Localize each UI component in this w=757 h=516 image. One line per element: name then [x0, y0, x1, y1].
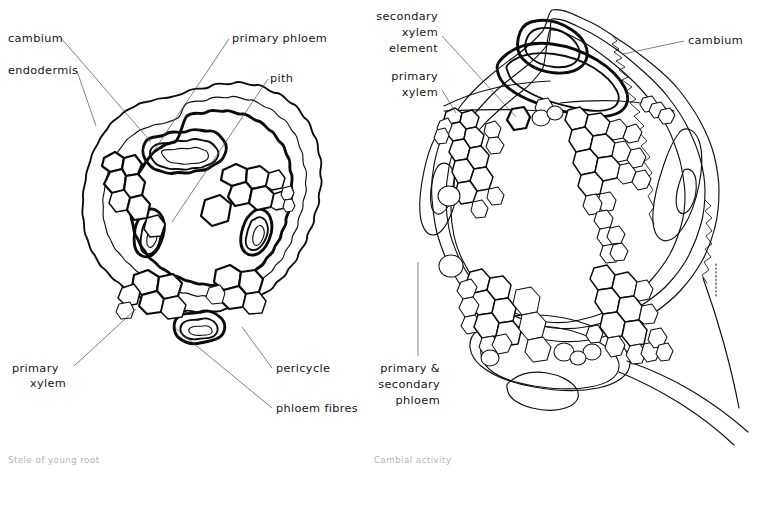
svg-text:primary: primary — [12, 362, 59, 375]
figure-background — [0, 0, 757, 516]
svg-text:xylem: xylem — [402, 26, 438, 39]
svg-text:primary: primary — [391, 70, 438, 83]
svg-text:xylem: xylem — [402, 86, 438, 99]
svg-text:element: element — [389, 42, 438, 55]
svg-text:xylem: xylem — [30, 377, 66, 390]
label-phloem-fibres: phloem fibres — [276, 402, 358, 415]
caption-right-panel: Cambial activity — [374, 455, 452, 465]
label-pith: pith — [270, 72, 293, 85]
label-endodermis: endodermis — [8, 64, 78, 77]
caption-left-panel: Stele of young root — [8, 455, 100, 465]
label-cambium-left: cambium — [8, 32, 63, 45]
svg-text:secondary: secondary — [378, 378, 440, 391]
label-pericycle: pericycle — [276, 362, 330, 375]
label-primary-phloem: primary phloem — [232, 32, 327, 45]
botanical-figure: cambium endodermis primary phloem pith p… — [0, 0, 757, 516]
svg-text:phloem: phloem — [396, 394, 440, 407]
svg-text:primary &: primary & — [380, 362, 440, 375]
svg-text:secondary: secondary — [376, 10, 438, 23]
label-cambium-right: cambium — [688, 34, 743, 47]
figure-canvas: cambium endodermis primary phloem pith p… — [0, 0, 757, 516]
